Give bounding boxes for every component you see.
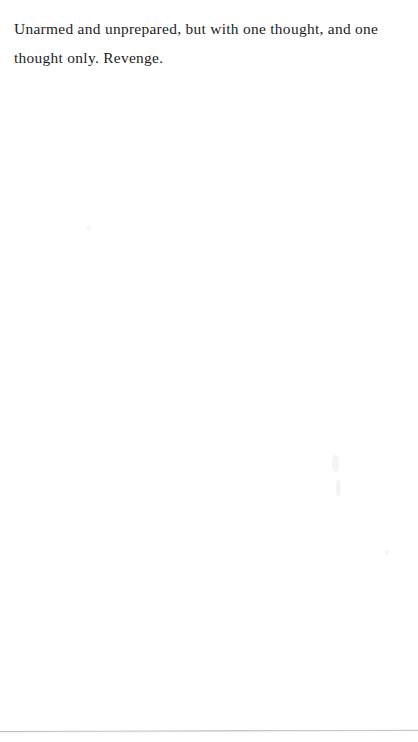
page-edge-rule-shadow xyxy=(0,731,418,733)
blank-page-area xyxy=(0,80,418,725)
body-text-line-1: Unarmed and unprepared, but with one tho… xyxy=(14,14,406,43)
body-text-line-2: thought only. Revenge. xyxy=(14,43,406,72)
body-text-block: Unarmed and unprepared, but with one tho… xyxy=(14,14,406,72)
scanned-page: Unarmed and unprepared, but with one tho… xyxy=(0,0,418,742)
